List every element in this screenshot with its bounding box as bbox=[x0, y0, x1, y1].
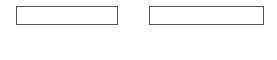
spin-arrows-diagram bbox=[0, 0, 277, 60]
